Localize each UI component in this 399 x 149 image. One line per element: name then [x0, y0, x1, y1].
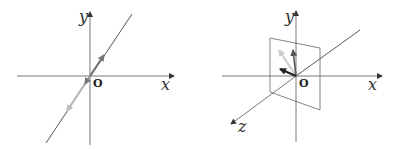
z-axis-label: z	[237, 117, 247, 136]
diagram-canvas: x y O x y z O	[0, 0, 399, 149]
right-3d-diagram: x y z O	[222, 7, 382, 142]
vector-dark	[90, 55, 104, 76]
y-axis-label: y	[78, 7, 89, 26]
y-axis-label: y	[284, 7, 295, 26]
x-axis-label: x	[161, 75, 170, 94]
vector-light-short	[85, 76, 90, 84]
line-through-origin	[296, 30, 360, 76]
origin-label: O	[93, 77, 103, 90]
origin-label: O	[299, 77, 309, 90]
left-2d-diagram: x y O	[17, 7, 174, 145]
x-axis-label: x	[368, 75, 377, 94]
